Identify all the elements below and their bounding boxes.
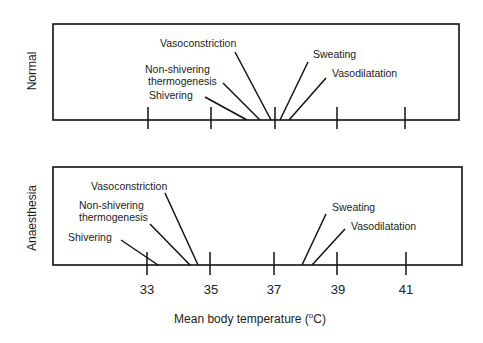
label-vasodilatation-normal: Vasodilatation: [332, 67, 397, 79]
x-tick-label-41: 41: [399, 282, 413, 297]
leader-shivering-anaesthesia: [121, 240, 158, 265]
label-shivering-anaesthesia: Shivering: [68, 231, 112, 243]
label-sweating-normal: Sweating: [313, 48, 356, 60]
label-nst-normal-line2: thermogenesis: [148, 75, 217, 87]
ticks-anaesthesia: [147, 252, 406, 275]
panel-title-anaesthesia: Anaesthesia: [25, 185, 39, 251]
label-nst-normal-line1: Non-shivering: [145, 63, 210, 75]
x-tick-label-39: 39: [331, 282, 345, 297]
x-axis-title: Mean body temperature (oC): [174, 311, 326, 326]
label-nst-anaesthesia-line1: Non-shivering: [79, 199, 144, 211]
leader-vasoconstriction-normal: [235, 52, 271, 120]
x-tick-label-33: 33: [140, 282, 154, 297]
label-sweating-anaesthesia: Sweating: [332, 201, 375, 213]
x-tick-labels: 33 35 37 39 41: [140, 282, 413, 297]
leader-sweating-anaesthesia: [302, 214, 326, 265]
ticks-normal: [148, 107, 405, 129]
x-axis-title-prefix: Mean body temperature (: [174, 312, 309, 326]
leader-vasodilatation-normal: [289, 78, 326, 120]
panel-title-normal: Normal: [25, 52, 39, 91]
label-vasoconstriction-normal: Vasoconstriction: [160, 37, 236, 49]
leader-sweating-normal: [280, 62, 308, 120]
label-vasodilatation-anaesthesia: Vasodilatation: [351, 220, 416, 232]
x-tick-label-37: 37: [267, 282, 281, 297]
x-axis-title-suffix: C): [313, 312, 326, 326]
thermoregulation-diagram: Normal Shivering Non-shivering thermogen…: [0, 0, 483, 343]
leader-nst-anaesthesia: [150, 224, 190, 265]
panel-normal: Normal Shivering Non-shivering thermogen…: [25, 24, 459, 129]
leader-vasoconstriction-anaesthesia: [165, 193, 198, 265]
panel-anaesthesia: Anaesthesia Shivering Non-shivering ther…: [25, 167, 462, 275]
x-tick-label-35: 35: [204, 282, 218, 297]
panel-frame-normal: [53, 24, 459, 120]
label-vasoconstriction-anaesthesia: Vasoconstriction: [91, 180, 167, 192]
label-shivering-normal: Shivering: [149, 89, 193, 101]
label-nst-anaesthesia-line2: thermogenesis: [79, 211, 148, 223]
